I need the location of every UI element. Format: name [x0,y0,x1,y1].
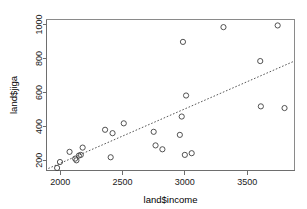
plot-frame [47,20,295,171]
data-point [110,131,115,136]
y-tick-label: 800 [35,51,45,66]
data-point [177,132,182,137]
y-axis-title: land$jiga [8,75,19,114]
data-points-group [54,23,287,171]
scatter-plot-figure: 20002500300035002004006008001000land$inc… [0,0,307,209]
data-point [258,58,263,63]
x-tick-label: 3500 [237,177,257,187]
data-point [182,152,187,157]
data-point [221,25,226,30]
x-axis-title: land$income [144,194,198,205]
x-axis: 2000250030003500 [47,171,295,187]
data-point [275,23,280,28]
data-point [282,105,287,110]
data-point [121,121,126,126]
data-point [189,151,194,156]
data-point [179,114,184,119]
data-point [160,147,165,152]
data-point [108,155,113,160]
data-point [153,143,158,148]
plot-canvas: 20002500300035002004006008001000land$inc… [0,0,307,209]
x-tick-label: 2000 [50,177,70,187]
y-tick-label: 600 [35,85,45,100]
y-axis: 2004006008001000 [35,15,47,171]
x-tick-label: 3000 [175,177,195,187]
x-tick-label: 2500 [113,177,133,187]
data-point [183,93,188,98]
y-tick-label: 1000 [35,15,45,35]
y-tick-label: 400 [35,119,45,134]
data-point [102,127,107,132]
data-point [54,165,59,170]
data-point [151,129,156,134]
data-point [67,149,72,154]
y-tick-label: 200 [35,153,45,168]
data-point [57,159,62,164]
data-point [80,145,85,150]
data-point [258,104,263,109]
regression-line [48,62,293,169]
data-point [180,39,185,44]
